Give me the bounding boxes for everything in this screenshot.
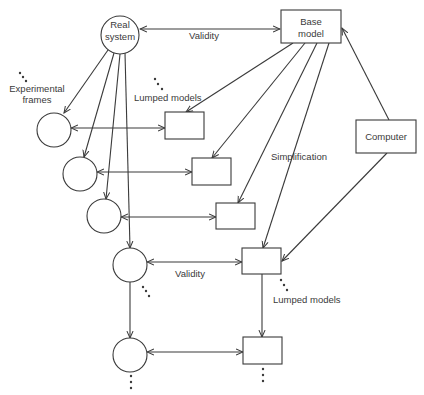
base-model-label-line1: Base: [300, 16, 322, 27]
base-model-label-line2: model: [298, 28, 324, 39]
lumped-models-bottom-label: Lumped models: [273, 294, 341, 305]
base-model-node: Base model: [281, 10, 341, 43]
real-system-label-line1: Real: [110, 19, 130, 30]
edge-computer-to-base: [342, 28, 389, 120]
experimental-frame-2: [63, 157, 97, 191]
edge-base-to-lumped-2: [212, 43, 305, 158]
simplification-edges: [186, 43, 329, 337]
experimental-frames-label-line2: frames: [22, 94, 51, 105]
real-system-node: Real system: [101, 16, 139, 54]
simplification-label: Simplification: [271, 151, 327, 162]
lumped-model-3: [216, 203, 255, 229]
computer-node: Computer: [356, 120, 416, 153]
edge-real-to-frame-3: [106, 54, 120, 199]
lumped-model-2: [192, 158, 231, 185]
computer-label: Computer: [365, 131, 407, 142]
validity-top-label: Validity: [189, 30, 219, 41]
real-system-label-line2: system: [105, 31, 135, 42]
experimental-frame-3: [87, 199, 121, 233]
lumped-model-5: [243, 337, 282, 364]
experimental-frame-4: [113, 248, 147, 282]
lumped-models-top-label: Lumped models: [134, 92, 202, 103]
real-system-to-frames-edges: [64, 50, 130, 338]
experimental-frame-5: [113, 338, 147, 372]
experimental-frame-1: [37, 113, 71, 147]
edge-base-to-lumped-4: [263, 43, 329, 248]
lumped-model-1: [165, 112, 204, 139]
edge-real-to-frame-2: [84, 53, 114, 157]
lumped-model-4: [242, 248, 281, 274]
edge-base-to-lumped-3: [238, 43, 317, 203]
edge-real-to-frame-4: [125, 53, 130, 248]
system-diagram: Real system Base model Computer Validity…: [0, 0, 424, 395]
experimental-frames-label-line1: Experimental: [9, 83, 64, 94]
validity-bottom-label: Validity: [175, 268, 205, 279]
edge-computer-to-lumped-4: [282, 153, 387, 261]
edge-real-to-frame-1: [64, 50, 108, 113]
